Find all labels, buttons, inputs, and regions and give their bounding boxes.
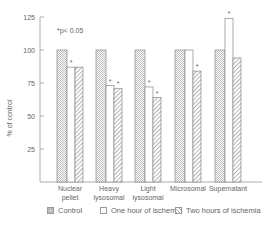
bar-two-hours-of-ischemia bbox=[193, 71, 201, 182]
legend-label: Two hours of ischemia bbox=[186, 206, 261, 215]
significance-star: * bbox=[228, 10, 231, 17]
y-tick-label: 125 bbox=[23, 14, 35, 21]
x-category-label: Supernatant bbox=[209, 185, 247, 193]
x-category-label: lysosomal bbox=[132, 194, 164, 202]
significance-star: * bbox=[196, 63, 199, 70]
significance-star: * bbox=[70, 59, 73, 66]
legend-item-one-hour: One hour of ischemia bbox=[100, 206, 182, 215]
significance-annotation: *p< 0.05 bbox=[57, 27, 83, 35]
legend: Control One hour of ischemia Two hours o… bbox=[0, 206, 271, 220]
bar-control bbox=[135, 50, 145, 182]
x-category-label: Heavy bbox=[99, 185, 119, 193]
significance-star: * bbox=[148, 79, 151, 86]
bar-chart: 255075100125 ******* NuclearpelletHeavyl… bbox=[0, 0, 271, 206]
bar-control bbox=[215, 50, 225, 182]
y-tick-label: 25 bbox=[27, 146, 35, 153]
bar-one-hour-of-ischemia bbox=[145, 87, 153, 182]
one-hour-swatch-icon bbox=[100, 207, 107, 214]
bars: ******* bbox=[57, 10, 241, 182]
significance-star: * bbox=[109, 78, 112, 85]
bar-control bbox=[175, 50, 185, 182]
y-tick-label: 50 bbox=[27, 113, 35, 120]
two-hours-swatch-icon bbox=[175, 207, 182, 214]
bar-control bbox=[57, 50, 67, 182]
x-category-label: lysosomal bbox=[93, 194, 125, 202]
y-tick-label: 75 bbox=[27, 80, 35, 87]
bar-two-hours-of-ischemia bbox=[75, 67, 83, 182]
legend-label: Control bbox=[58, 206, 82, 215]
x-category-label: pellet bbox=[62, 194, 79, 202]
x-category-label: Microsomal bbox=[170, 185, 206, 192]
bar-one-hour-of-ischemia bbox=[67, 67, 75, 182]
legend-label: One hour of ischemia bbox=[111, 206, 182, 215]
y-tick-label: 100 bbox=[23, 47, 35, 54]
x-category-label: Nuclear bbox=[58, 185, 83, 192]
x-category-label: Light bbox=[140, 185, 155, 193]
control-swatch-icon bbox=[47, 207, 54, 214]
significance-star: * bbox=[117, 80, 120, 87]
bar-control bbox=[96, 50, 106, 182]
bar-one-hour-of-ischemia bbox=[106, 86, 114, 182]
bar-one-hour-of-ischemia bbox=[185, 50, 193, 182]
bar-two-hours-of-ischemia bbox=[153, 98, 161, 182]
legend-item-two-hours: Two hours of ischemia bbox=[175, 206, 261, 215]
bar-two-hours-of-ischemia bbox=[114, 88, 122, 182]
bar-one-hour-of-ischemia bbox=[225, 18, 233, 182]
significance-star: * bbox=[156, 90, 159, 97]
legend-item-control: Control bbox=[47, 206, 82, 215]
bar-two-hours-of-ischemia bbox=[233, 58, 241, 182]
category-labels: NuclearpelletHeavylysosomalLightlysosoma… bbox=[58, 185, 247, 202]
y-axis-label: % of control bbox=[6, 99, 13, 136]
